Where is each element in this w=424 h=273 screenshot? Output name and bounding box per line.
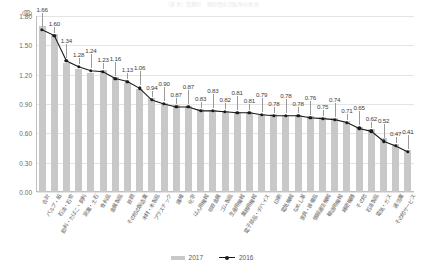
label-leader-line [396,137,397,143]
data-label: 0.81 [232,89,243,96]
data-label: 1.13 [122,66,133,73]
data-point [333,118,336,121]
data-label: 0.78 [268,100,279,107]
data-point [101,70,104,73]
y-tick-label: 0.00 [2,189,32,196]
data-label: 0.65 [354,104,365,111]
data-label: 0.62 [366,115,377,122]
label-leader-line [127,73,128,79]
chart-title: （参考）業種別 棚卸資産回転率の推移 [0,0,424,7]
legend-label-2017: 2017 [189,254,203,261]
data-label: 1.06 [134,64,145,71]
label-leader-line [201,102,202,108]
data-point [394,144,397,147]
data-point [65,59,68,62]
data-point [138,87,141,90]
data-point [370,130,373,133]
label-leader-line [164,87,165,101]
bar-swatch-icon [171,256,185,260]
label-leader-line [103,63,104,69]
data-point [248,111,251,114]
y-tick-label: 1.50 [2,42,32,49]
data-label: 1.16 [110,55,121,62]
y-tick-label: 1.80 [2,13,32,20]
data-point [53,34,56,37]
label-leader-line [371,122,372,128]
data-label: 0.87 [183,83,194,90]
data-point [211,109,214,112]
label-leader-line [249,104,250,110]
line-marker-icon [219,256,235,260]
data-label: 1.60 [49,20,60,27]
data-label: 0.78 [280,92,291,99]
data-label: 0.52 [378,117,389,124]
chart-container: （参考）業種別 棚卸資産回転率の推移 (回) 0.000.300.600.901… [0,0,424,273]
label-leader-line [140,71,141,85]
data-point [114,77,117,80]
label-leader-line [213,94,214,108]
data-point [126,80,129,83]
data-point [40,28,43,31]
label-leader-line [323,110,324,116]
data-label: 0.79 [256,91,267,98]
data-point [199,109,202,112]
y-tick-label: 0.30 [2,159,32,166]
data-point [382,139,385,142]
data-label: 0.81 [244,97,255,104]
label-leader-line [66,44,67,58]
data-label: 0.75 [317,103,328,110]
data-label: 1.23 [97,56,108,63]
y-tick-label: 1.20 [2,71,32,78]
data-point [187,105,190,108]
data-label: 0.90 [158,80,169,87]
data-label: 0.76 [305,94,316,101]
label-leader-line [91,54,92,68]
data-point [175,105,178,108]
label-leader-line [225,103,226,109]
label-leader-line [384,124,385,138]
chart-legend: 2017 2016 [0,254,424,261]
x-axis-category-labels: 合計パルプ・紙石油・石炭飲料・たばこ・飼料窯業・土石食料品金属製品鉄鋼その他の製… [36,193,414,251]
legend-item-2016[interactable]: 2016 [219,254,253,261]
data-point [150,98,153,101]
label-leader-line [79,58,80,64]
data-label: 0.82 [219,96,230,103]
label-leader-line [188,90,189,104]
data-label: 1.28 [73,51,84,58]
data-label: 0.71 [341,107,352,114]
label-leader-line [298,107,299,113]
data-point-labels: 1.661.601.341.281.241.231.161.131.060.94… [36,16,414,192]
data-label: 0.83 [195,95,206,102]
label-leader-line [274,107,275,113]
label-leader-line [42,13,43,27]
label-leader-line [152,91,153,97]
data-point [162,102,165,105]
data-label: 1.66 [36,6,47,13]
legend-label-2016: 2016 [239,254,253,261]
data-point [309,116,312,119]
label-leader-line [359,111,360,125]
label-leader-line [286,99,287,113]
data-point [77,65,80,68]
data-point [284,114,287,117]
label-leader-line [54,27,55,33]
label-leader-line [408,135,409,149]
y-tick-label: 0.90 [2,101,32,108]
data-label: 1.24 [85,47,96,54]
label-leader-line [115,62,116,76]
data-point [223,110,226,113]
data-point [406,150,409,153]
data-point [272,114,275,117]
label-leader-line [237,96,238,110]
y-tick-label: 0.60 [2,130,32,137]
data-point [296,114,299,117]
data-label: 0.83 [207,87,218,94]
legend-item-2017[interactable]: 2017 [171,254,203,261]
data-point [89,69,92,72]
data-label: 0.47 [390,130,401,137]
label-leader-line [176,98,177,104]
data-point [345,121,348,124]
data-point [357,127,360,130]
data-label: 0.41 [402,128,413,135]
data-point [321,117,324,120]
